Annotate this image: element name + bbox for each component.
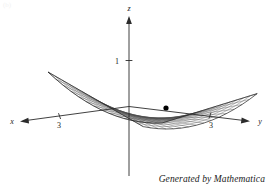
- surface-plot-canvas: 1 z 3 x 3 y: [0, 0, 271, 190]
- surface-point-marker: [163, 105, 168, 110]
- axis-label-z: z: [126, 4, 131, 13]
- y-tick-label-3: 3: [209, 121, 213, 130]
- x-tick-label-3: 3: [57, 121, 61, 130]
- surface-mesh: [48, 72, 257, 129]
- axis-z: [126, 16, 133, 176]
- mathematica-caption: Generated by Mathematica: [159, 174, 265, 184]
- mathematica-figure: (b): [0, 0, 271, 190]
- axis-label-y: y: [257, 117, 262, 126]
- z-tick-label-1: 1: [115, 57, 119, 66]
- axis-label-x: x: [9, 117, 14, 126]
